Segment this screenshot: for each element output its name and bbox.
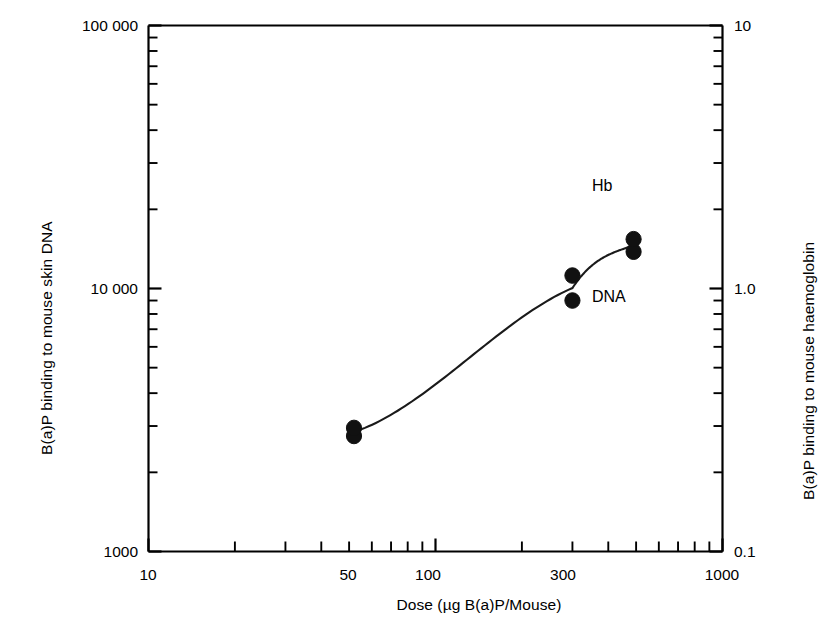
- point-dna-1[interactable]: [346, 420, 361, 436]
- plot-area: [0, 0, 828, 638]
- point-dna-2[interactable]: [565, 293, 580, 309]
- axes-frame: [149, 26, 723, 552]
- fitted-curves: [354, 0, 634, 432]
- curve-dna: [354, 245, 634, 432]
- point-dna-3[interactable]: [565, 268, 580, 284]
- point-dna-5[interactable]: [626, 231, 641, 247]
- data-points: [346, 0, 641, 444]
- chart-figure: B(a)P binding to mouse skin DNA B(a)P bi…: [0, 0, 828, 638]
- axis-ticks: [149, 26, 723, 552]
